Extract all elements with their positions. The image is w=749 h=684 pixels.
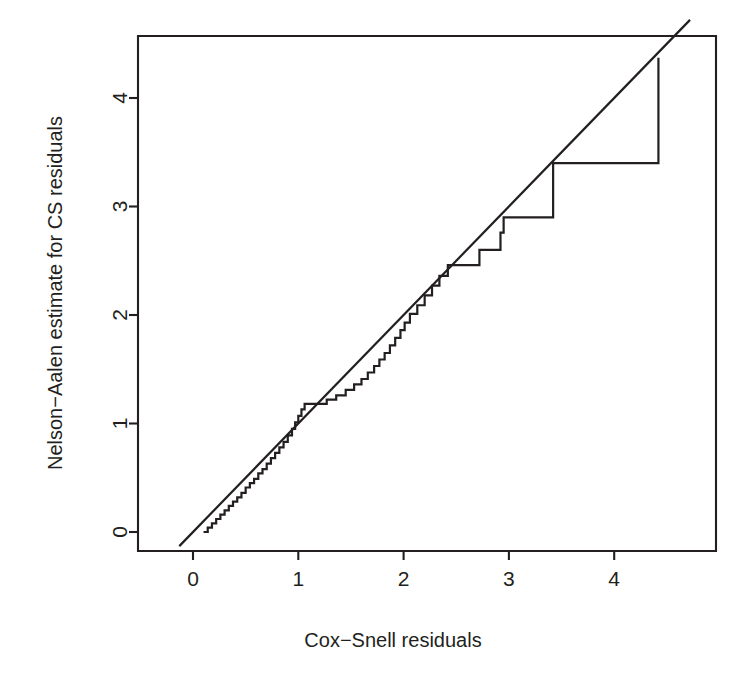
y-tick-label-3: 3 (108, 201, 131, 213)
x-tick-label-4: 4 (608, 567, 620, 590)
x-axis-title: Cox−Snell residuals (304, 629, 481, 651)
tick-labels: 0123401234 (108, 92, 621, 590)
axis-titles: Cox−Snell residuals Nelson−Aalen estimat… (44, 116, 482, 651)
plot-frame (138, 36, 716, 551)
y-tick-label-0: 0 (108, 526, 131, 538)
y-tick-label-4: 4 (108, 92, 131, 104)
x-tick-label-0: 0 (187, 567, 199, 590)
plot-box (138, 36, 716, 551)
x-tick-label-3: 3 (503, 567, 515, 590)
x-tick-label-1: 1 (292, 567, 304, 590)
y-axis-title: Nelson−Aalen estimate for CS residuals (44, 116, 66, 470)
series-reference-line (179, 20, 690, 546)
y-tick-label-2: 2 (108, 309, 131, 321)
plot-series (179, 20, 690, 546)
cox-snell-residual-plot: 0123401234 Cox−Snell residuals Nelson−Aa… (0, 0, 749, 684)
figure-canvas: 0123401234 Cox−Snell residuals Nelson−Aa… (0, 0, 749, 684)
y-tick-label-1: 1 (108, 418, 131, 430)
series-nelson-aalen-step (204, 58, 659, 532)
x-tick-label-2: 2 (398, 567, 410, 590)
axis-ticks (129, 98, 614, 560)
